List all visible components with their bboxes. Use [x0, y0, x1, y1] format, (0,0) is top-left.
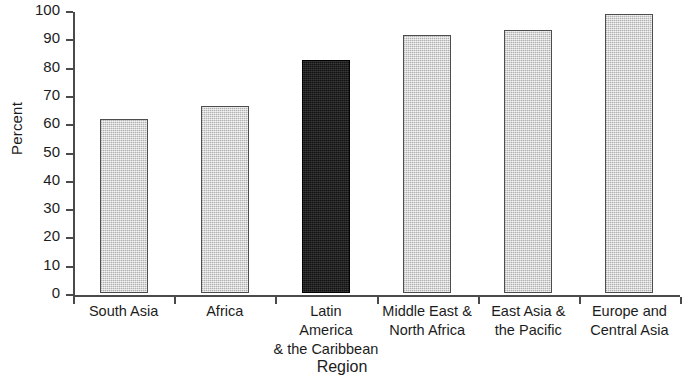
x-tick-label: Europe and Central Asia	[569, 302, 684, 340]
y-tick-label: 30	[43, 199, 60, 217]
y-tick-label: 10	[43, 256, 60, 274]
x-axis-title: Region	[0, 358, 684, 376]
bar	[403, 35, 451, 293]
y-tick-label: 50	[43, 143, 60, 161]
y-tick-label: 40	[43, 171, 60, 189]
plot-area: 0102030405060708090100	[73, 12, 680, 295]
y-tick-label: 100	[35, 1, 60, 19]
y-tick: 80	[66, 68, 73, 70]
y-tick: 10	[66, 266, 73, 268]
bar	[605, 14, 653, 293]
y-tick: 30	[66, 209, 73, 211]
y-tick: 20	[66, 237, 73, 239]
y-tick-label: 90	[43, 29, 60, 47]
y-tick: 70	[66, 96, 73, 98]
y-tick: 90	[66, 39, 73, 41]
bar	[302, 60, 350, 293]
y-tick: 60	[66, 124, 73, 126]
y-axis-line	[73, 12, 75, 296]
bar	[201, 106, 249, 293]
bar-chart: Percent 0102030405060708090100 South Asi…	[0, 0, 684, 387]
y-tick-label: 80	[43, 58, 60, 76]
y-tick: 100	[66, 11, 73, 13]
bar	[504, 30, 552, 293]
bar	[100, 119, 148, 293]
y-tick-label: 60	[43, 114, 60, 132]
y-tick: 50	[66, 153, 73, 155]
y-tick-label: 20	[43, 227, 60, 245]
y-tick-label: 70	[43, 86, 60, 104]
y-tick-label: 0	[52, 284, 60, 302]
y-tick: 0	[66, 294, 73, 296]
y-axis-title: Percent	[8, 79, 25, 179]
y-tick: 40	[66, 181, 73, 183]
